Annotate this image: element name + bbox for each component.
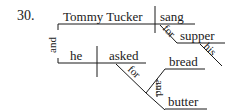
compound-object-2: butter bbox=[168, 94, 199, 109]
compound-object-1: bread bbox=[169, 54, 198, 69]
clause2-verb: asked bbox=[109, 48, 139, 63]
clause1-subject: Tommy Tucker bbox=[63, 9, 143, 24]
conjunction: and bbox=[46, 37, 58, 53]
sentence-diagram: 30. Tommy Tucker sang for supper his and… bbox=[0, 0, 239, 110]
clause1-preposition: for bbox=[161, 22, 179, 40]
exercise-number: 30. bbox=[17, 8, 35, 23]
clause2-preposition: for bbox=[126, 63, 144, 81]
clause2-subject: he bbox=[70, 48, 83, 63]
clause1-verb: sang bbox=[160, 9, 184, 24]
compound-conjunction: and bbox=[154, 80, 166, 96]
